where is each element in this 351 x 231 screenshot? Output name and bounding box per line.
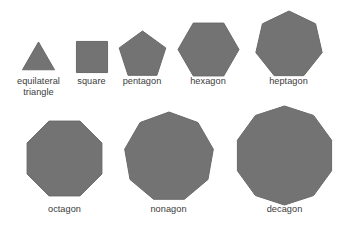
decagon-shape xyxy=(237,106,331,205)
polygon-octagon xyxy=(22,116,107,201)
polygon-heptagon xyxy=(253,9,325,81)
polygon-label-nonagon: nonagon xyxy=(136,204,201,215)
polygon-pentagon xyxy=(116,29,169,82)
square-svg xyxy=(68,33,116,81)
polygon-label-hexagon: hexagon xyxy=(176,76,240,87)
octagon-svg xyxy=(22,116,107,201)
polygon-decagon xyxy=(233,104,336,207)
polygon-hexagon xyxy=(176,17,241,82)
polygon-equilateral-triangle xyxy=(18,40,59,81)
polygon-figure: equilateral trianglesquarepentagonhexago… xyxy=(0,0,351,231)
hexagon-shape xyxy=(178,23,239,76)
nonagon-svg xyxy=(122,110,216,204)
equilateral triangle-shape xyxy=(22,42,54,70)
square-shape xyxy=(76,41,107,72)
pentagon-shape xyxy=(119,31,166,75)
equilateral triangle-svg xyxy=(18,40,59,81)
nonagon-shape xyxy=(124,112,213,199)
polygon-nonagon xyxy=(122,110,216,204)
octagon-shape xyxy=(27,121,102,196)
pentagon-svg xyxy=(116,29,169,82)
polygon-label-octagon: octagon xyxy=(32,204,97,215)
heptagon-shape xyxy=(255,11,321,76)
polygon-square xyxy=(68,33,116,81)
polygon-label-decagon: decagon xyxy=(252,204,317,215)
polygon-label-pentagon: pentagon xyxy=(110,76,174,87)
decagon-svg xyxy=(233,104,336,207)
polygon-label-heptagon: heptagon xyxy=(255,76,322,87)
hexagon-svg xyxy=(176,17,241,82)
heptagon-svg xyxy=(253,9,325,81)
